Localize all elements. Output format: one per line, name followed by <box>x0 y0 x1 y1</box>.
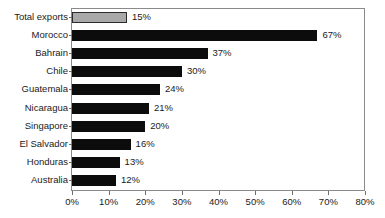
bar <box>72 48 208 59</box>
x-axis-labels: 0%10%20%30%40%50%60%70%80% <box>0 196 385 210</box>
bar-row: 37% <box>72 45 365 63</box>
x-axis-tick <box>72 191 73 195</box>
category-label: Chile <box>0 66 68 76</box>
category-label: Bahrain <box>0 48 68 58</box>
bar-row: 12% <box>72 172 365 190</box>
x-axis-tick <box>109 191 110 195</box>
x-axis-tick <box>145 191 146 195</box>
bar-row: 20% <box>72 118 365 136</box>
x-axis-tick-label: 70% <box>319 196 338 208</box>
bar <box>72 175 116 186</box>
x-axis-tick <box>255 191 256 195</box>
category-label: Australia <box>0 175 68 185</box>
bar-value-label: 67% <box>322 28 341 42</box>
x-axis-tick-label: 10% <box>99 196 118 208</box>
x-axis-tick <box>365 191 366 195</box>
bar-value-label: 24% <box>165 82 184 96</box>
x-axis-tick <box>219 191 220 195</box>
bar-value-label: 21% <box>154 101 173 115</box>
bar-row: 30% <box>72 63 365 81</box>
bar <box>72 12 127 23</box>
bar-row: 67% <box>72 27 365 45</box>
x-axis-tick <box>328 191 329 195</box>
x-axis-tick <box>182 191 183 195</box>
category-label: Nicaragua <box>0 103 68 113</box>
x-axis-tick-label: 40% <box>209 196 228 208</box>
bars-layer: 15%67%37%30%24%21%20%16%13%12% <box>72 9 365 190</box>
bar <box>72 121 145 132</box>
category-label: Morocco <box>0 30 68 40</box>
bar-row: 13% <box>72 154 365 172</box>
x-axis-tick-label: 80% <box>355 196 374 208</box>
bar-row: 21% <box>72 100 365 118</box>
bar <box>72 157 120 168</box>
bar-value-label: 12% <box>121 173 140 187</box>
category-label: Honduras <box>0 157 68 167</box>
x-axis-tick-label: 30% <box>172 196 191 208</box>
bar-row: 16% <box>72 136 365 154</box>
x-axis-tick-label: 20% <box>136 196 155 208</box>
bar-value-label: 20% <box>150 119 169 133</box>
x-axis-tick-label: 60% <box>282 196 301 208</box>
bar-chart: Total exportsMoroccoBahrainChileGuatemal… <box>0 0 385 218</box>
bar <box>72 84 160 95</box>
bar <box>72 66 182 77</box>
x-axis-tick-label: 0% <box>65 196 79 208</box>
bar-value-label: 30% <box>187 64 206 78</box>
bar <box>72 139 131 150</box>
bar-value-label: 37% <box>213 46 232 60</box>
bar-value-label: 15% <box>132 10 151 24</box>
category-axis-labels: Total exportsMoroccoBahrainChileGuatemal… <box>0 8 68 191</box>
bar <box>72 30 317 41</box>
x-axis-tick-label: 50% <box>246 196 265 208</box>
bar-row: 24% <box>72 81 365 99</box>
bar-row: 15% <box>72 9 365 27</box>
category-label: Total exports <box>0 12 68 22</box>
bar-value-label: 16% <box>136 137 155 151</box>
bar <box>72 103 149 114</box>
x-axis-tick <box>292 191 293 195</box>
category-label: Guatemala <box>0 84 68 94</box>
category-label: El Salvador <box>0 139 68 149</box>
category-label: Singapore <box>0 121 68 131</box>
bar-value-label: 13% <box>125 155 144 169</box>
